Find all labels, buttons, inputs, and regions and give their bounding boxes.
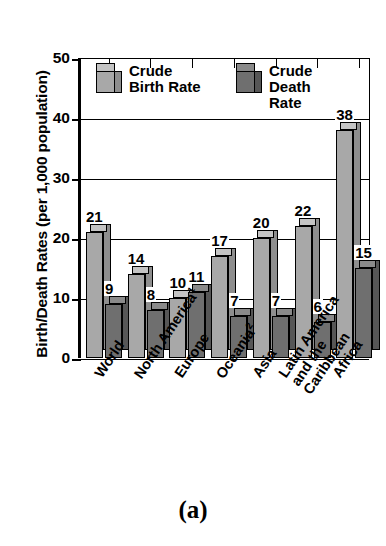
legend-item-crude-birth-rate: Crude Birth Rate — [96, 63, 201, 95]
legend-cube-icon — [96, 63, 122, 93]
birth-death-rate-bar-chart: Birth/Death Rates (per 1,000 population)… — [0, 0, 386, 546]
y-axis-title: Birth/Death Rates (per 1,000 population) — [33, 54, 51, 374]
bar-top-face — [234, 308, 251, 316]
bar-front-face — [253, 238, 270, 358]
legend-cube-face — [236, 71, 255, 93]
value-label-death-6: 15 — [354, 245, 373, 260]
gridline-40 — [81, 119, 369, 120]
bar-top-face — [132, 266, 149, 274]
bar-birth-3 — [211, 248, 228, 358]
value-label-birth-5: 22 — [294, 203, 313, 218]
bar-top-face — [359, 260, 376, 268]
legend-label: Crude Death Rate — [269, 63, 346, 112]
y-tick-label-0: 0 — [36, 350, 70, 366]
legend-label: Crude Birth Rate — [129, 63, 201, 95]
value-label-birth-1: 14 — [127, 251, 146, 266]
bar-birth-4 — [253, 230, 270, 358]
y-tick-label-20: 20 — [36, 230, 70, 246]
value-label-death-0: 9 — [104, 281, 114, 296]
value-label-death-2: 11 — [187, 269, 205, 284]
bar-birth-0 — [86, 224, 103, 358]
figure-caption: (a) — [0, 496, 386, 524]
gridline-30 — [81, 179, 369, 180]
bar-top-face — [340, 122, 357, 130]
value-label-birth-4: 20 — [252, 215, 271, 230]
legend-item-crude-death-rate: Crude Death Rate — [236, 63, 346, 112]
legend-cube-face — [96, 63, 115, 72]
y-tick-0 — [72, 359, 81, 361]
legend: Crude Birth RateCrude Death Rate — [96, 63, 346, 111]
bar-top-face — [151, 302, 168, 310]
y-tick-label-10: 10 — [36, 290, 70, 306]
y-tick-40 — [72, 119, 81, 121]
y-tick-10 — [72, 299, 81, 301]
legend-cube-icon — [236, 63, 262, 93]
y-tick-label-50: 50 — [36, 50, 70, 66]
y-tick-label-30: 30 — [36, 170, 70, 186]
value-label-birth-3: 17 — [210, 233, 229, 248]
legend-cube-face — [236, 63, 255, 72]
bar-birth-1 — [128, 266, 145, 358]
bar-top-face — [90, 224, 107, 232]
y-tick-30 — [72, 179, 81, 181]
bar-top-face — [109, 296, 126, 304]
bar-top-face — [215, 248, 232, 256]
value-label-birth-0: 21 — [85, 209, 104, 224]
bar-top-face — [276, 308, 293, 316]
value-label-death-3: 7 — [229, 293, 239, 308]
bar-top-face — [257, 230, 274, 238]
y-tick-label-40: 40 — [36, 110, 70, 126]
value-label-death-1: 8 — [146, 287, 156, 302]
legend-cube-face — [96, 71, 115, 93]
bar-front-face — [86, 232, 103, 358]
y-tick-50 — [72, 59, 81, 61]
bar-front-face — [128, 274, 145, 358]
top-tick-7 — [359, 59, 360, 68]
y-tick-20 — [72, 239, 81, 241]
value-label-death-4: 7 — [271, 293, 281, 308]
bar-top-face — [299, 218, 316, 226]
bar-side-face — [372, 260, 380, 350]
bar-front-face — [211, 256, 228, 358]
